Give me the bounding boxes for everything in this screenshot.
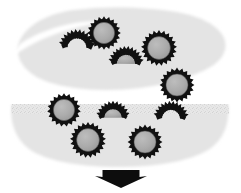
lower-lobe-flat-top-trim	[0, 96, 241, 104]
capsid-core	[166, 74, 188, 96]
figure-root	[0, 0, 241, 193]
capsid-core	[134, 131, 156, 153]
capsid-core	[148, 37, 171, 60]
capsid-core	[93, 22, 114, 43]
capsid-core	[77, 129, 100, 152]
particle-transport-diagram	[0, 0, 241, 193]
capsid-core	[53, 99, 74, 120]
